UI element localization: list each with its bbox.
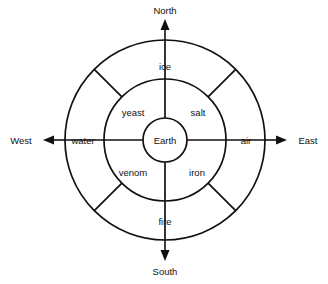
inner-label-yeast: yeast (122, 107, 145, 118)
compass-label-east: East (298, 135, 317, 146)
outer-label-fire: fire (158, 216, 171, 227)
north-arrow-icon (161, 19, 170, 30)
center-label-earth: Earth (154, 135, 177, 146)
compass-label-south: South (153, 266, 178, 277)
inner-label-iron: iron (189, 167, 205, 178)
outer-label-air: air (241, 135, 252, 146)
outer-label-water: water (70, 135, 94, 146)
elemental-wheel-diagram: ice air fire water yeast salt iron venom… (0, 0, 328, 284)
compass-label-north: North (153, 5, 176, 16)
south-arrow-icon (161, 250, 170, 261)
outer-label-ice: ice (159, 61, 171, 72)
outer-spoke-northwest (94, 69, 122, 97)
wheel-svg-canvas: ice air fire water yeast salt iron venom… (0, 0, 328, 284)
outer-spoke-northeast (208, 69, 236, 97)
inner-label-salt: salt (191, 107, 206, 118)
outer-spoke-southeast (208, 183, 236, 211)
outer-spoke-southwest (94, 183, 122, 211)
west-arrow-icon (43, 136, 54, 145)
east-arrow-icon (276, 136, 287, 145)
inner-label-venom: venom (119, 167, 148, 178)
compass-label-west: West (10, 135, 32, 146)
